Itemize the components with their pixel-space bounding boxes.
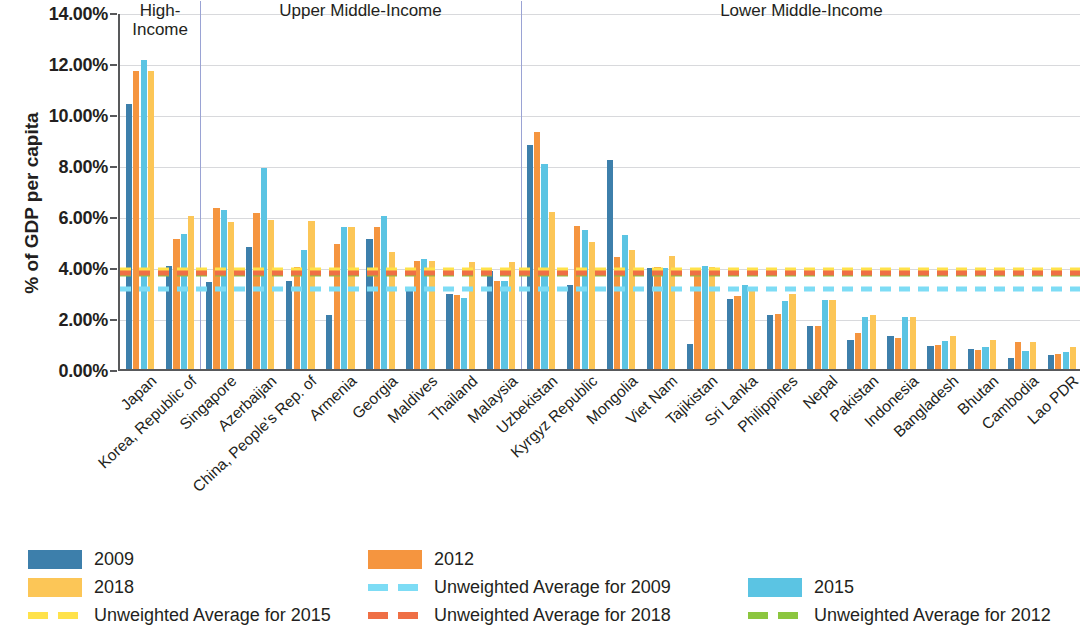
legend-color-swatch (748, 578, 802, 597)
bar (487, 271, 493, 369)
bar (381, 216, 387, 369)
y-axis-tick-label: 2.00% (8, 310, 108, 331)
bar (942, 341, 948, 369)
bar (1022, 351, 1028, 369)
bar (589, 242, 595, 370)
bar (173, 239, 179, 369)
bar (461, 298, 467, 369)
legend-item[interactable]: 2018 (28, 577, 134, 598)
bar (494, 281, 500, 369)
legend-dash-swatch (28, 612, 82, 619)
bar-group (561, 14, 601, 369)
legend-dash-swatch (368, 584, 422, 591)
y-axis-tick-mark (110, 370, 117, 372)
bar (1070, 347, 1076, 369)
bar (469, 262, 475, 369)
bar (775, 314, 781, 369)
bar-group (721, 14, 761, 369)
bar (647, 268, 653, 369)
reference-line (120, 287, 1080, 292)
bar (308, 221, 314, 369)
bar (527, 145, 533, 369)
bar (166, 266, 172, 369)
legend-label: 2012 (434, 549, 474, 570)
bar (567, 285, 573, 369)
bar (902, 317, 908, 369)
y-axis-tick-mark (110, 115, 117, 117)
bar (734, 296, 740, 369)
legend-dash-swatch (748, 612, 802, 619)
legend-dash-swatch (368, 612, 422, 619)
bar (1015, 342, 1021, 369)
bar (374, 227, 380, 369)
legend-item[interactable]: 2012 (368, 549, 474, 570)
x-axis-labels: JapanKorea, Republic ofSingaporeAzerbaij… (118, 372, 1080, 542)
bar (454, 295, 460, 369)
bar (1048, 355, 1054, 369)
y-axis-tick-label: 10.00% (8, 106, 108, 127)
bar-group (761, 14, 801, 369)
bar-group (240, 14, 280, 369)
bar (429, 261, 435, 369)
legend-label: Unweighted Average for 2012 (814, 605, 1051, 626)
y-axis-tick-label: 6.00% (8, 208, 108, 229)
bar (829, 300, 835, 369)
bar-series-container (120, 14, 1080, 369)
legend-color-swatch (28, 550, 82, 569)
y-axis-tick-mark (110, 64, 117, 66)
bar-group (120, 14, 160, 369)
bar (709, 267, 715, 369)
legend-item[interactable]: Unweighted Average for 2009 (368, 577, 671, 598)
bar-group (160, 14, 200, 369)
bar (414, 261, 420, 369)
bar-group (601, 14, 641, 369)
bar (1055, 354, 1061, 369)
bar-group (1002, 14, 1042, 369)
bar-group (842, 14, 882, 369)
bar (807, 326, 813, 369)
bar (181, 234, 187, 369)
legend-color-swatch (28, 578, 82, 597)
bar-group (681, 14, 721, 369)
bar-group (641, 14, 681, 369)
bar (887, 336, 893, 369)
chart-legend: 2009201220152018Unweighted Average for 2… (0, 549, 1092, 634)
bar-group (962, 14, 1002, 369)
bar (870, 315, 876, 369)
bar (982, 347, 988, 369)
y-axis-tick-mark (110, 268, 117, 270)
bar (446, 294, 452, 369)
bar (509, 262, 515, 369)
bar (847, 340, 853, 369)
y-axis-tick-mark (110, 217, 117, 219)
bar (782, 301, 788, 369)
bar (862, 317, 868, 369)
bar (815, 326, 821, 369)
bar (206, 282, 212, 369)
bar (326, 315, 332, 369)
bar (968, 349, 974, 369)
bar (228, 222, 234, 369)
legend-item[interactable]: 2009 (28, 549, 134, 570)
bar (927, 346, 933, 369)
bar (541, 164, 547, 369)
bar (582, 230, 588, 369)
legend-item[interactable]: 2015 (748, 577, 854, 598)
bar (574, 226, 580, 369)
bar (662, 268, 668, 369)
bar-group (280, 14, 320, 369)
bar (687, 344, 693, 370)
bar (855, 333, 861, 369)
bar (133, 71, 139, 369)
bar (742, 285, 748, 369)
bar (727, 299, 733, 369)
bar (694, 268, 700, 369)
bar (749, 289, 755, 369)
legend-item[interactable]: Unweighted Average for 2015 (28, 605, 331, 626)
plot-panel: High-IncomeUpper Middle-IncomeLower Midd… (118, 14, 1080, 371)
chart-figure: % of GDP per capita 0.00%2.00%4.00%6.00%… (0, 0, 1092, 634)
legend-item[interactable]: Unweighted Average for 2012 (748, 605, 1051, 626)
bar (126, 104, 132, 369)
bar-group (1042, 14, 1082, 369)
legend-item[interactable]: Unweighted Average for 2018 (368, 605, 671, 626)
